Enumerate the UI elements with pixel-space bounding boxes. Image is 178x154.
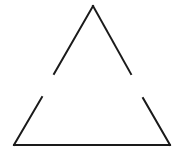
broken-triangle-diagram xyxy=(0,0,178,154)
background xyxy=(0,0,178,154)
